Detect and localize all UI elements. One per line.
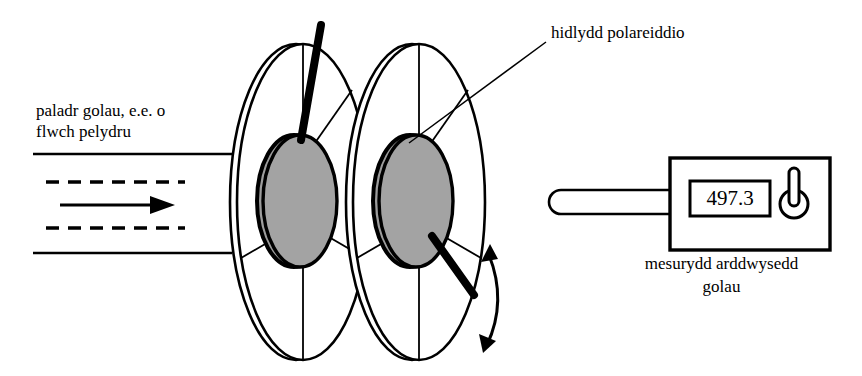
light-beam-direction-arrow	[60, 196, 175, 214]
polarising-filter-label: hidlydd polareiddio	[551, 22, 685, 43]
diagram-canvas: paladr golau, e.e. o flwch pelydru hidly…	[0, 0, 862, 376]
light-beam-group	[33, 154, 232, 253]
probe-bar-icon	[549, 190, 672, 214]
meter-caption-label: mesurydd arddwysedd golau	[604, 252, 839, 298]
rotation-double-arrow	[479, 244, 498, 353]
first-polarising-filter	[257, 135, 337, 267]
meter-display-value: 497.3	[690, 181, 770, 216]
beam-source-label: paladr golau, e.e. o flwch pelydru	[36, 100, 165, 142]
first-filter-face	[263, 135, 337, 267]
